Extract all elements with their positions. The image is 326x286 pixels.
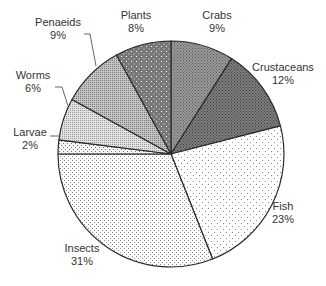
leader-line-worms — [55, 87, 68, 106]
pie-slices — [58, 41, 284, 267]
slice-label-larvae: Larvae — [13, 126, 47, 138]
slice-percent-insects: 31% — [71, 255, 93, 267]
slice-label-plants: Plants — [121, 9, 152, 21]
slice-percent-larvae: 2% — [22, 139, 38, 151]
slice-label-crabs: Crabs — [202, 9, 232, 21]
slice-percent-crabs: 9% — [209, 22, 225, 34]
slice-percent-plants: 8% — [128, 22, 144, 34]
slice-label-penaeids: Penaeids — [35, 16, 81, 28]
pie-chart: Crabs9%Crustaceans12%Fish23%Insects31%La… — [0, 0, 326, 286]
slice-label-fish: Fish — [273, 200, 294, 212]
slice-label-crustaceans: Crustaceans — [252, 61, 314, 73]
slice-label-insects: Insects — [65, 242, 100, 254]
slice-label-worms: Worms — [16, 69, 51, 81]
slice-percent-worms: 6% — [25, 82, 41, 94]
slice-percent-penaeids: 9% — [50, 29, 66, 41]
slice-percent-fish: 23% — [272, 213, 294, 225]
leader-line-penaeids — [84, 34, 96, 66]
slice-percent-crustaceans: 12% — [272, 74, 294, 86]
